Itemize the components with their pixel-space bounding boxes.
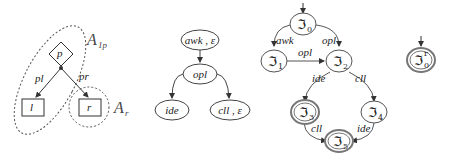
edge-s3-s5-label: cll — [311, 122, 322, 134]
state-s1: ℑ 1 — [261, 50, 287, 72]
tree-edge-mid-right — [217, 74, 229, 98]
automaton: awk opl opl ide cll cll ide ℑ 0 ℑ 1 ℑ 2 — [261, 3, 387, 152]
svg-text:ℑ: ℑ — [368, 105, 377, 120]
node-p-label: p — [56, 47, 63, 59]
svg-text:5: 5 — [343, 142, 348, 151]
svg-text:ℑ: ℑ — [297, 17, 306, 32]
svg-text:ℑ: ℑ — [414, 53, 423, 68]
group-ar-label: A — [113, 99, 124, 116]
tree-mid-label: opl — [193, 68, 207, 80]
diagram-canvas: p pl pr l r A 1p A r awk , ε opl ide cll… — [0, 0, 451, 157]
middle-tree: awk , ε opl ide cll , ε — [155, 30, 250, 120]
node-r-label: r — [87, 101, 92, 113]
edge-pr-label: pr — [78, 70, 90, 82]
svg-text:ℑ: ℑ — [333, 54, 342, 69]
group-a1p-sub: 1p — [98, 40, 108, 50]
state-s2: ℑ 2 — [326, 50, 352, 72]
node-l-label: l — [30, 101, 33, 113]
edge-pl-label: pl — [34, 72, 44, 84]
edge-s4-s5-label: ide — [357, 122, 371, 134]
state-s0: ℑ 0 — [290, 13, 316, 35]
svg-text:0: 0 — [424, 61, 429, 70]
edge-s0-s1-label: awk — [276, 34, 295, 46]
tree-root-label: awk , ε — [185, 34, 216, 46]
edge-s2-s3-label: ide — [312, 72, 326, 84]
standalone-state-r0: ℑ 0 r — [407, 36, 435, 72]
group-a1p-label: A — [86, 31, 97, 48]
tree-edge-mid-left — [172, 74, 183, 98]
svg-text:ℑ: ℑ — [333, 134, 342, 149]
state-s4: ℑ 4 — [361, 101, 387, 123]
edge-s1-s2-label: opl — [298, 46, 312, 58]
svg-text:1: 1 — [278, 62, 283, 71]
svg-text:r: r — [424, 49, 428, 58]
svg-text:3: 3 — [309, 113, 314, 122]
svg-text:2: 2 — [343, 62, 348, 71]
edge-s0-s2-label: opl — [322, 34, 336, 46]
group-ar-sub: r — [125, 108, 129, 118]
tree-left-label: ide — [165, 104, 179, 116]
tree-right-label: cll , ε — [218, 104, 242, 116]
svg-text:ℑ: ℑ — [299, 105, 308, 120]
left-graph: p pl pr l r A 1p A r — [0, 15, 129, 144]
state-s5-accepting: ℑ 5 — [325, 130, 353, 152]
state-s3-accepting: ℑ 3 — [291, 100, 319, 124]
svg-text:4: 4 — [378, 113, 383, 122]
svg-text:ℑ: ℑ — [268, 54, 277, 69]
svg-text:0: 0 — [307, 25, 312, 34]
edge-s2-s4-label: cll — [355, 72, 366, 84]
